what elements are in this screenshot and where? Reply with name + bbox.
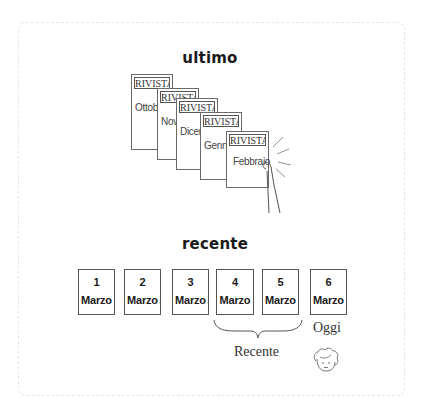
today-label: Oggi	[313, 320, 341, 336]
magazine-month: Ottob	[135, 102, 158, 113]
date-card-5: 5 Marzo	[262, 269, 299, 315]
curly-brace-icon	[212, 318, 304, 340]
card-day: 2	[125, 276, 160, 289]
card-month: Marzo	[217, 294, 253, 307]
card-month: Marzo	[311, 294, 346, 307]
date-card-6-today: 6 Marzo	[310, 269, 347, 315]
card-month: Marzo	[263, 294, 298, 307]
date-card-1: 1 Marzo	[78, 269, 115, 315]
section-title-ultimo: ultimo	[170, 49, 250, 67]
card-day: 1	[79, 276, 114, 289]
hand-icon	[240, 125, 320, 215]
card-month: Marzo	[173, 294, 208, 307]
section-title-recente: recente	[170, 235, 260, 253]
date-card-4: 4 Marzo	[216, 269, 254, 315]
card-day: 4	[217, 276, 253, 289]
card-day: 5	[263, 276, 298, 289]
card-month: Marzo	[79, 294, 114, 307]
recent-brace-label: Recente	[234, 344, 279, 360]
magazine-masthead: RIVISTA	[203, 115, 239, 127]
person-face-icon	[312, 347, 340, 373]
card-day: 6	[311, 276, 346, 289]
card-month: Marzo	[125, 294, 160, 307]
date-card-2: 2 Marzo	[124, 269, 161, 315]
date-card-3: 3 Marzo	[172, 269, 209, 315]
card-day: 3	[173, 276, 208, 289]
